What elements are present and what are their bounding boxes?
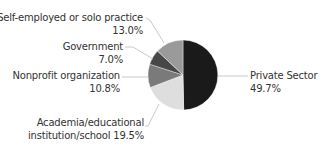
pie-slices [148,40,218,110]
pie-slice-private-sector [183,40,218,110]
leader-academia [145,104,159,126]
label-academia: Academia/educational institution/school … [28,116,144,142]
label-nonprofit: Nonprofit organization 10.8% [13,69,120,95]
label-private-sector-pct: 49.7% [250,82,317,95]
leader-self-employed [146,18,164,43]
label-government: Government 7.0% [63,40,123,66]
label-private-sector-name: Private Sector [250,69,317,82]
leader-government [125,47,153,59]
label-academia-line2: institution/school 19.5% [28,129,144,142]
label-nonprofit-pct: 10.8% [13,82,120,95]
label-government-name: Government [63,40,123,53]
label-nonprofit-name: Nonprofit organization [13,69,120,82]
label-self-employed-pct: 13.0% [0,24,143,37]
label-academia-line1: Academia/educational [28,116,144,129]
label-self-employed: Self-employed or solo practice 13.0% [0,11,143,37]
label-private-sector: Private Sector 49.7% [250,69,317,95]
label-government-pct: 7.0% [63,53,123,66]
label-self-employed-name: Self-employed or solo practice [0,11,143,24]
